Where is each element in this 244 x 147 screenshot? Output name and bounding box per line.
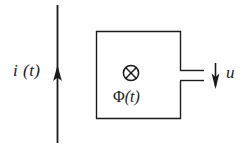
flux-label: Φ(t): [113, 89, 140, 105]
flux-symbol: Φ: [113, 88, 125, 105]
figure-canvas: i (t) Φ(t) u: [0, 0, 244, 147]
voltage-label: u: [226, 64, 235, 81]
current-label: i (t): [13, 62, 41, 79]
flux-argument: (t): [125, 88, 140, 105]
